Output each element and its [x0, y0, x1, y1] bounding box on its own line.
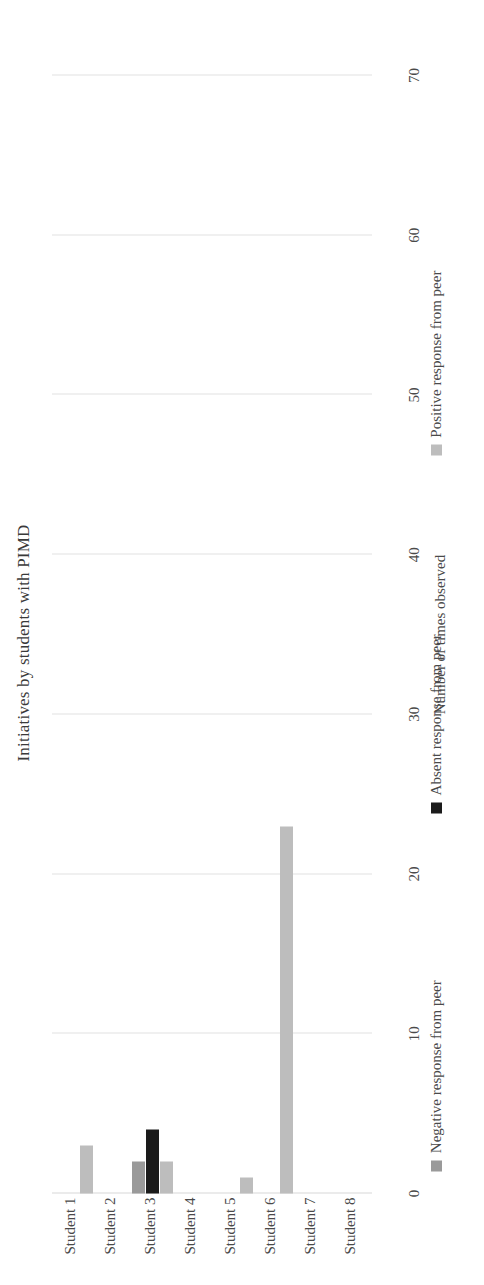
category-band: [212, 75, 252, 1193]
category-axis-label: Student 1: [62, 1197, 79, 1285]
bar: [240, 1177, 253, 1193]
category-axis-label: Student 3: [142, 1197, 159, 1285]
chart-legend: Negative response from peerAbsent respon…: [428, 75, 458, 1193]
value-axis-tick-label: 60: [406, 205, 423, 265]
category-axis-label: Student 7: [302, 1197, 319, 1285]
legend-item[interactable]: Absent response from peer: [428, 634, 445, 813]
bar: [80, 1145, 93, 1193]
category-axis-label: Student 8: [342, 1197, 359, 1285]
bar: [146, 1129, 159, 1193]
value-axis-tick-label: 20: [406, 844, 423, 904]
category-band: [292, 75, 332, 1193]
legend-item[interactable]: Negative response from peer: [428, 980, 445, 1171]
legend-label: Negative response from peer: [428, 980, 445, 1153]
chart-figure: Initiatives by students with PIMD 010203…: [0, 0, 484, 1285]
plot-area: [52, 75, 372, 1193]
value-axis-tick-label: 70: [406, 45, 423, 105]
legend-label: Absent response from peer: [428, 634, 445, 795]
plot-canvas: [52, 75, 372, 1193]
category-band: [332, 75, 372, 1193]
legend-swatch-icon: [431, 1160, 442, 1171]
legend-swatch-icon: [431, 444, 442, 455]
category-band: [132, 75, 172, 1193]
chart-title: Initiatives by students with PIMD: [14, 0, 34, 1285]
bar: [160, 1161, 173, 1193]
bar: [132, 1161, 145, 1193]
value-axis-tick-label: 10: [406, 1003, 423, 1063]
legend-item[interactable]: Positive response from peer: [428, 270, 445, 455]
category-axis-label: Student 4: [182, 1197, 199, 1285]
category-axis-label: Student 6: [262, 1197, 279, 1285]
value-axis-tick-label: 40: [406, 524, 423, 584]
legend-swatch-icon: [431, 802, 442, 813]
legend-label: Positive response from peer: [428, 270, 445, 437]
value-axis-tick-label: 30: [406, 684, 423, 744]
value-axis-tick-label: 50: [406, 364, 423, 424]
category-axis-label: Student 5: [222, 1197, 239, 1285]
category-band: [92, 75, 132, 1193]
category-band: [172, 75, 212, 1193]
value-axis-tick-label: 0: [406, 1163, 423, 1223]
category-band: [52, 75, 92, 1193]
bar: [280, 826, 293, 1193]
category-axis-label: Student 2: [102, 1197, 119, 1285]
category-band: [252, 75, 292, 1193]
